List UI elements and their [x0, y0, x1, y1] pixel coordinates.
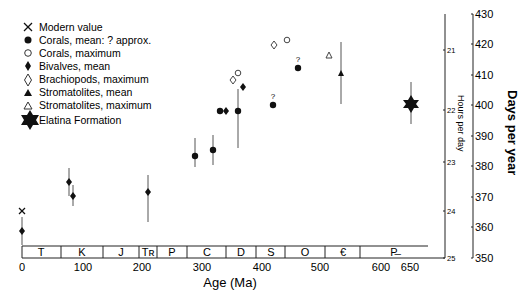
x-tick: 100	[74, 261, 92, 273]
x-icon	[24, 23, 32, 31]
y-tick: 370	[475, 191, 493, 203]
y-tick: 410	[475, 69, 493, 81]
x-tick: 0	[19, 261, 25, 273]
star-icon	[403, 95, 419, 113]
y-tick: 400	[475, 99, 493, 111]
y-tick: 360	[475, 221, 493, 233]
filled-circle-icon	[25, 37, 32, 44]
open-diamond-icon	[25, 74, 32, 86]
y2-tick: 21	[447, 46, 455, 55]
open-circle-icon	[25, 50, 32, 57]
period-S: S	[267, 246, 274, 258]
period-K: K	[78, 246, 86, 258]
open-triangle-icon	[24, 102, 32, 109]
days-tick-labels: 430 420 410 400 390 380 370 360 350	[475, 8, 493, 264]
period-labels: T K J Tʀ P C D S O € P̶	[38, 246, 402, 258]
open-diamond-icon	[230, 76, 236, 84]
filled-circle-icon	[217, 108, 223, 114]
y2-tick: 23	[447, 158, 455, 167]
open-circle-icon	[284, 37, 290, 43]
x-tick: 650	[401, 261, 419, 273]
x-tick: 500	[311, 261, 329, 273]
x-icon	[19, 208, 25, 214]
filled-circle-icon	[192, 153, 198, 159]
period-J: J	[118, 246, 124, 258]
legend-label: Corals, maximum	[39, 47, 121, 59]
y-tick: 430	[475, 8, 493, 20]
y-tick: 420	[475, 38, 493, 50]
days-axis-label: Days per year	[505, 90, 520, 175]
filled-triangle-icon	[338, 70, 344, 76]
x-tick: 600	[372, 261, 390, 273]
filled-diamond-icon	[19, 227, 25, 235]
y2-tick: 22	[447, 106, 455, 115]
x-tick: 300	[193, 261, 211, 273]
period-P: P	[168, 246, 175, 258]
period-T: T	[38, 246, 45, 258]
legend-label: Brachiopods, maximum	[39, 73, 149, 85]
filled-diamond-icon	[240, 83, 246, 91]
filled-triangle-icon	[24, 89, 32, 96]
legend: Modern value Corals, mean: ? approx. Cor…	[21, 21, 152, 130]
x-tick-labels: 0 100 200 300 400 500 600 650	[19, 261, 419, 273]
y-tick: 350	[475, 252, 493, 264]
x-tick: 200	[133, 261, 151, 273]
legend-label: Modern value	[39, 21, 103, 33]
period-O: O	[301, 246, 310, 258]
x-tick: 400	[253, 261, 271, 273]
legend-label: Stromatolites, maximum	[39, 99, 152, 111]
filled-diamond-icon	[223, 107, 229, 115]
y-tick: 380	[475, 160, 493, 172]
filled-circle-icon	[210, 147, 216, 153]
legend-label: Elatina Formation	[39, 114, 121, 126]
x-axis-label: Age (Ma)	[203, 275, 256, 290]
y-tick: 390	[475, 130, 493, 142]
filled-diamond-icon	[145, 188, 151, 196]
chart: T K J Tʀ P C D S O € P̶ 0 100 200 300 40…	[0, 0, 523, 299]
filled-circle-icon	[235, 108, 241, 114]
filled-circle-icon	[295, 65, 301, 71]
y2-tick: 24	[447, 207, 455, 216]
legend-label: Corals, mean: ? approx.	[39, 34, 151, 46]
period-D: D	[237, 246, 245, 258]
period-Tr: Tʀ	[142, 246, 155, 258]
filled-diamond-icon	[70, 192, 76, 200]
hours-tick-labels: 21 22 23 24 25	[447, 46, 455, 263]
legend-label: Stromatolites, mean	[39, 86, 133, 98]
open-circle-icon	[235, 70, 241, 76]
open-triangle-icon	[326, 52, 332, 58]
legend-label: Bivalves, mean	[39, 60, 110, 72]
approx-marker: ?	[271, 92, 276, 101]
period-Cambrian: €	[340, 246, 346, 258]
y2-tick: 25	[447, 254, 455, 263]
hours-axis-label: Hours per day	[456, 95, 466, 152]
open-diamond-icon	[271, 41, 277, 49]
period-C: C	[203, 246, 211, 258]
filled-circle-icon	[270, 102, 276, 108]
filled-diamond-icon	[66, 178, 72, 186]
star-icon	[21, 110, 39, 130]
approx-marker: ?	[296, 55, 301, 64]
filled-diamond-icon	[25, 61, 31, 71]
period-Precambrian: P̶	[390, 246, 401, 258]
